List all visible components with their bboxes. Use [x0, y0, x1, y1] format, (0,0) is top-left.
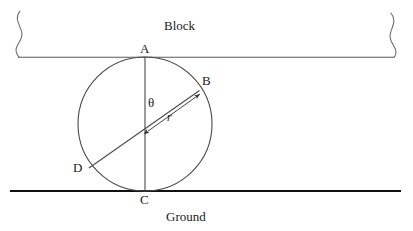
radius-label: r: [167, 111, 172, 123]
inclined-diameter-DB: [89, 91, 200, 169]
radius-dimension-arrow: [148, 94, 201, 132]
block-caption: Block: [164, 19, 195, 32]
block-left-break-icon: [16, 11, 22, 57]
point-label-a: A: [140, 42, 149, 55]
point-label-c: C: [140, 193, 149, 206]
ground-caption: Ground: [166, 210, 206, 223]
block-right-break-icon: [390, 13, 396, 57]
angle-theta-label: θ: [148, 96, 154, 109]
physics-diagram: Block Ground A B C D θ r: [0, 0, 413, 231]
point-label-d: D: [73, 161, 82, 174]
point-label-b: B: [202, 74, 211, 87]
diagram-canvas: [0, 0, 413, 231]
